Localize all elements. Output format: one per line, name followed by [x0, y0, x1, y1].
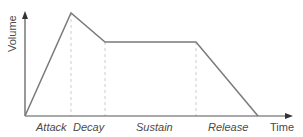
x-axis-label: Time: [270, 121, 294, 133]
y-axis-label: Volume: [6, 15, 18, 52]
adsr-diagram: [0, 0, 303, 137]
y-axis-arrow-icon: [22, 11, 28, 19]
phase-label-attack: Attack: [36, 121, 67, 133]
x-axis-arrow-icon: [285, 113, 293, 119]
phase-label-sustain: Sustain: [136, 121, 173, 133]
phase-label-release: Release: [208, 121, 248, 133]
phase-label-decay: Decay: [73, 121, 104, 133]
envelope-curve: [25, 13, 258, 116]
